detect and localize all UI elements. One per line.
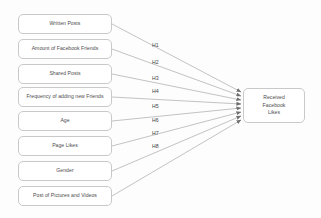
outcome-label-line3: Likes	[263, 109, 286, 116]
hypothesis-path-h3	[112, 74, 241, 100]
hypothesis-path-lines	[112, 24, 241, 196]
outcome-box-received-facebook-likes[interactable]: Received Facebook Likes	[243, 88, 305, 123]
predictor-label: Amount of Facebook Friends	[32, 45, 99, 52]
hypothesis-path-h1	[112, 24, 241, 92]
predictor-box-frequency-of-adding-new-friends[interactable]: Frequency of adding new Friends	[18, 87, 112, 107]
hypothesis-label-h1: H1	[152, 42, 159, 48]
predictor-label: Frequency of adding new Friends	[26, 93, 103, 100]
predictor-box-age[interactable]: Age	[18, 111, 112, 131]
hypothesis-path-h7	[112, 116, 241, 171]
predictor-label: Shared Posts	[49, 70, 80, 77]
predictor-label: Post of Pictures and Videos	[33, 192, 97, 199]
predictor-box-gender[interactable]: Gender	[18, 161, 112, 181]
predictor-box-post-of-pictures-and-videos[interactable]: Post of Pictures and Videos	[18, 186, 112, 206]
predictor-label: Gender	[56, 167, 73, 174]
hypothesis-label-h3: H3	[152, 75, 159, 81]
predictor-box-written-posts[interactable]: Written Posts	[18, 14, 112, 34]
hypothesis-label-h2: H2	[152, 59, 159, 65]
predictor-box-page-likes[interactable]: Page Likes	[18, 136, 112, 156]
predictor-label: Written Posts	[50, 20, 81, 27]
hypothesis-path-h5	[112, 108, 241, 121]
hypothesis-path-h2	[112, 49, 241, 96]
outcome-label-line2: Facebook	[263, 102, 286, 109]
predictor-label: Page Likes	[52, 142, 78, 149]
hypothesis-label-h6: H6	[152, 117, 159, 123]
predictor-box-shared-posts[interactable]: Shared Posts	[18, 64, 112, 84]
outcome-label-line1: Received	[263, 94, 286, 101]
hypothesis-label-h5: H5	[152, 103, 159, 109]
hypothesis-label-h4: H4	[152, 88, 159, 94]
outcome-label-group: Received Facebook Likes	[263, 94, 286, 116]
predictor-label: Age	[60, 117, 69, 124]
hypothesis-path-h4	[112, 97, 241, 104]
research-model-diagram: Written Posts Amount of Facebook Friends…	[0, 0, 321, 218]
hypothesis-path-h8	[112, 120, 241, 196]
predictor-box-amount-of-facebook-friends[interactable]: Amount of Facebook Friends	[18, 39, 112, 59]
hypothesis-path-h6	[112, 112, 241, 146]
hypothesis-label-h8: H8	[152, 143, 159, 149]
hypothesis-label-h7: H7	[152, 130, 159, 136]
